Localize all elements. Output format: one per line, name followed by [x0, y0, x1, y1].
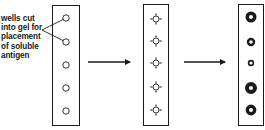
diffusing-well-icon [153, 16, 159, 22]
well-icon [63, 39, 69, 45]
diffusing-well-icon [153, 38, 159, 44]
precipitin-ring-icon [249, 61, 254, 66]
well-icon [63, 62, 69, 68]
precipitin-ring-icon [248, 39, 254, 45]
precipitin-ring-icon [247, 106, 254, 113]
diffusing-well-icon [153, 84, 159, 90]
precipitin-ring-icon [247, 13, 255, 21]
diffusing-well-icon [153, 60, 159, 66]
immunodiffusion-diagram [0, 0, 265, 130]
well-icon [63, 85, 69, 91]
well-icon [63, 15, 69, 21]
diffusing-well-icon [153, 107, 159, 113]
well-icon [63, 108, 69, 114]
precipitin-ring-icon [247, 84, 255, 92]
